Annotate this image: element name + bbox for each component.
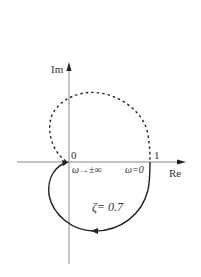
dashed-curve-negative-frequency — [50, 92, 150, 162]
real-axis-label: Re — [169, 168, 181, 179]
origin-tick-label: 0 — [71, 150, 77, 161]
direction-arrow-icon — [91, 228, 98, 234]
real-axis-arrow-icon — [177, 160, 186, 165]
omega-zero-label: ω=0 — [125, 165, 144, 175]
damping-ratio-label: ζ= 0.7 — [92, 201, 123, 213]
plot-canvas — [0, 0, 201, 277]
one-tick-label: 1 — [154, 150, 160, 161]
imag-axis-arrow-icon — [67, 62, 72, 71]
nyquist-diagram: Im Re 0 1 ω→±∞ ω=0 ζ= 0.7 — [0, 0, 201, 277]
imag-axis-label: Im — [51, 64, 63, 75]
omega-infinity-label: ω→±∞ — [72, 165, 102, 175]
